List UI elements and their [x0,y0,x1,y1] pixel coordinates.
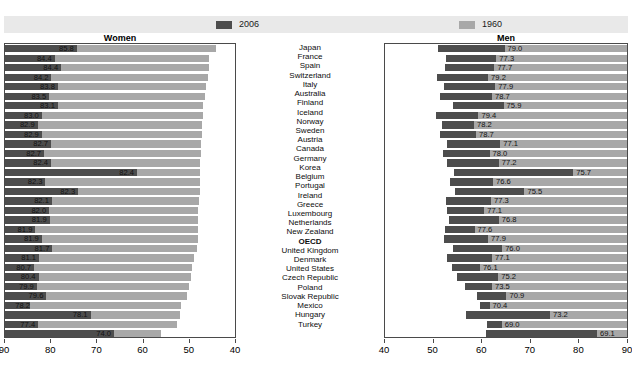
bar-2006 [466,311,550,318]
bar-value-label: 73.5 [495,282,519,291]
category-label: Greece [240,200,380,209]
bar-value-label: 82.3 [18,177,42,186]
bar-row: 82.3 [5,187,235,197]
bar-2006 [442,121,474,128]
bar-row: 77.1 [385,253,627,263]
bar-row: 76.8 [385,215,627,225]
bar-row: 77.4 [5,320,235,330]
bar-2006 [457,273,499,280]
bar-2006 [452,264,480,271]
bar-value-label: 81.9 [8,225,32,234]
bar-row: 80.4 [5,272,235,282]
category-label: Portugal [240,181,380,190]
bar-value-label: 73.2 [553,310,577,319]
bar-row: 82.9 [5,120,235,130]
category-label: Hungary [240,310,380,319]
bar-row: 80.7 [5,263,235,273]
bar-value-label: 82.9 [11,120,35,129]
bar-row: 82.7 [5,139,235,149]
bar-2006 [438,45,504,52]
bar-row: 83.5 [5,92,235,102]
axis-tick-label: 50 [427,344,438,355]
bar-value-label: 82.9 [15,130,39,139]
bar-row: 83.8 [5,82,235,92]
legend-label-2006: 2006 [239,16,259,33]
bar-row: 73.5 [385,282,627,292]
bar-row: 78.1 [5,310,235,320]
bar-2006 [445,64,495,71]
bar-row: 82.7 [5,149,235,159]
bar-row: 77.1 [385,139,627,149]
bar-2006 [446,197,491,204]
bar-row: 77.6 [385,225,627,235]
axis-tick-label: 50 [184,344,195,355]
bar-value-label: 82.1 [25,196,49,205]
axis-tick [189,339,190,343]
bar-2006 [453,102,503,109]
chart-root: 2006 1960 Women Men 85.884.484.484.283.8… [0,0,632,373]
bar-value-label: 83.5 [22,92,46,101]
legend-swatch-2006 [216,21,232,29]
bar-value-label: 81.9 [15,234,39,243]
bar-value-label: 77.1 [487,206,511,215]
bar-value-label: 81.1 [12,253,36,262]
bar-value-label: 84.2 [24,73,48,82]
bar-value-label: 82.7 [17,149,41,158]
bar-row: 79.6 [5,291,235,301]
axis-tick [433,339,434,343]
axis-tick-label: 70 [525,344,536,355]
bar-row: 78.7 [385,130,627,140]
bar-value-label: 75.9 [507,101,531,110]
bar-row: 81.7 [5,244,235,254]
bar-row: 77.1 [385,206,627,216]
category-label: Norway [240,117,380,126]
axis-tick-label: 70 [91,344,102,355]
bar-row: 84.2 [5,73,235,83]
bar-row: 77.2 [385,158,627,168]
category-label: Iceland [240,108,380,117]
category-label: Ireland [240,191,380,200]
category-label: Denmark [240,255,380,264]
bar-value-label: 85.8 [50,44,74,53]
bar-value-label: 79.9 [10,282,34,291]
bar-2006 [443,150,489,157]
bar-row: 83.1 [5,101,235,111]
bar-2006 [447,254,492,261]
bar-2006 [465,283,492,290]
bar-row: 76.6 [385,177,627,187]
bar-row: 79.4 [385,111,627,121]
bar-2006 [449,216,499,223]
bar-row: 76.1 [385,263,627,273]
bar-row: 77.7 [385,63,627,73]
bar-value-label: 70.4 [493,301,517,310]
bar-value-label: 75.2 [501,272,525,281]
axis-tick [143,339,144,343]
bar-value-label: 77.9 [498,82,522,91]
category-label: Poland [240,283,380,292]
bar-row: 70.4 [385,301,627,311]
bar-row: 82.4 [5,168,235,178]
bar-value-label: 79.2 [491,73,515,82]
bar-value-label: 82.7 [24,139,48,148]
axis-tick-label: 40 [379,344,390,355]
bar-2006 [486,330,597,337]
bar-2006 [477,292,506,299]
category-label: Czech Republic [240,273,380,282]
bar-2006 [440,93,492,100]
bar-value-label: 75.5 [527,187,551,196]
bar-value-label: 77.4 [11,320,35,329]
bar-value-label: 78.7 [479,130,503,139]
bar-value-label: 84.4 [28,54,52,63]
bar-2006 [454,169,573,176]
bar-value-label: 70.9 [509,291,533,300]
bar-2006 [436,112,478,119]
bar-2006 [487,321,502,328]
bar-row: 75.2 [385,272,627,282]
bar-1960 [5,302,181,309]
bar-row: 79.9 [5,282,235,292]
bar-row: 82.9 [5,130,235,140]
category-label: Korea [240,163,380,172]
category-label: Austria [240,135,380,144]
bar-2006 [450,178,493,185]
bar-value-label: 82.4 [24,158,48,167]
